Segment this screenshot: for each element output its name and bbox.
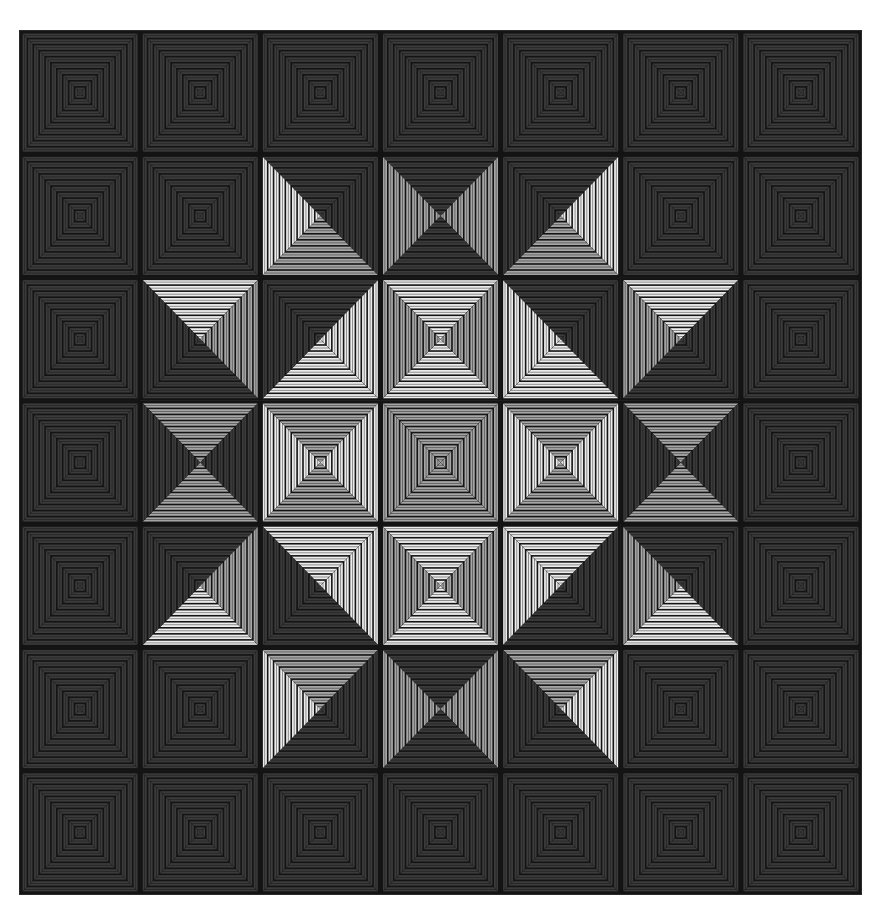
tile-r3-c3 xyxy=(380,401,500,524)
tile-r2-c0 xyxy=(20,278,140,401)
tile-r2-c4 xyxy=(501,278,621,401)
tile-r5-c1 xyxy=(140,647,260,770)
tile-r0-c5 xyxy=(621,31,741,154)
tile-r6-c0 xyxy=(20,771,140,894)
tile-r6-c1 xyxy=(140,771,260,894)
tile-r4-c0 xyxy=(20,524,140,647)
tile-r1-c3 xyxy=(380,154,500,277)
tile-r0-c3 xyxy=(380,31,500,154)
tile-r5-c0 xyxy=(20,647,140,770)
tile-r3-c4 xyxy=(501,401,621,524)
tile-r0-c4 xyxy=(501,31,621,154)
tile-r2-c2 xyxy=(260,278,380,401)
tile-r1-c4 xyxy=(501,154,621,277)
tile-r6-c5 xyxy=(621,771,741,894)
tile-r3-c1 xyxy=(140,401,260,524)
tile-r4-c2 xyxy=(260,524,380,647)
tile-r0-c1 xyxy=(140,31,260,154)
tile-r6-c6 xyxy=(741,771,861,894)
tile-r3-c2 xyxy=(260,401,380,524)
grid-svg xyxy=(20,31,861,894)
tile-r6-c3 xyxy=(380,771,500,894)
tile-r1-c1 xyxy=(140,154,260,277)
tile-r6-c2 xyxy=(260,771,380,894)
illusion-grid: Optical illusion: 7x7 grid of concentric… xyxy=(20,31,861,894)
tile-r1-c5 xyxy=(621,154,741,277)
tile-r1-c0 xyxy=(20,154,140,277)
tile-r5-c6 xyxy=(741,647,861,770)
tile-r4-c1 xyxy=(140,524,260,647)
tile-r5-c2 xyxy=(260,647,380,770)
tile-r2-c1 xyxy=(140,278,260,401)
tile-r3-c6 xyxy=(741,401,861,524)
tile-r0-c6 xyxy=(741,31,861,154)
tile-r2-c3 xyxy=(380,278,500,401)
tile-r4-c4 xyxy=(501,524,621,647)
tile-r5-c3 xyxy=(380,647,500,770)
tile-r5-c4 xyxy=(501,647,621,770)
tile-r1-c2 xyxy=(260,154,380,277)
tile-r1-c6 xyxy=(741,154,861,277)
tile-r4-c6 xyxy=(741,524,861,647)
tile-r3-c0 xyxy=(20,401,140,524)
tile-r2-c5 xyxy=(621,278,741,401)
tile-r5-c5 xyxy=(621,647,741,770)
tile-r6-c4 xyxy=(501,771,621,894)
tile-r0-c0 xyxy=(20,31,140,154)
tile-r4-c5 xyxy=(621,524,741,647)
tile-r3-c5 xyxy=(621,401,741,524)
tile-r4-c3 xyxy=(380,524,500,647)
tile-r2-c6 xyxy=(741,278,861,401)
tile-r0-c2 xyxy=(260,31,380,154)
